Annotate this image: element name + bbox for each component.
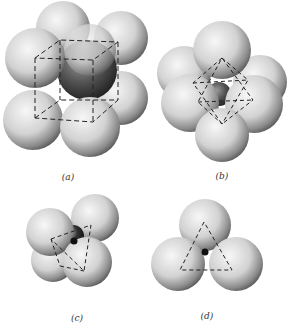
center-atom (202, 249, 209, 256)
panel-d-triangular (151, 199, 263, 291)
panel-b-label: (b) (216, 171, 229, 181)
sphere (62, 237, 112, 287)
sphere (151, 237, 205, 291)
coordination-figure (0, 0, 291, 330)
panel-a-cubic (3, 1, 148, 157)
panel-d-label: (d) (201, 311, 214, 321)
panel-a-label: (a) (62, 172, 74, 182)
panel-c-label: (c) (71, 313, 83, 323)
center-atom-dot (71, 238, 78, 245)
sphere (193, 21, 251, 79)
panel-c-tetrahedral (26, 194, 119, 287)
sphere (64, 24, 116, 76)
sphere (3, 90, 63, 150)
sphere (195, 108, 249, 162)
panel-b-octahedral (157, 21, 287, 162)
